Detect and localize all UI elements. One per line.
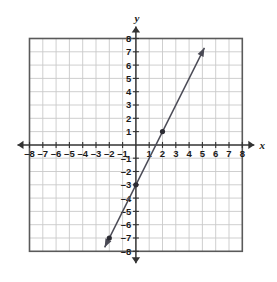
y-tick-label: –7 [121, 232, 132, 243]
graph-canvas: –8–7–6–5–4–3–2–11234567887654321–1–2–3–4… [0, 0, 277, 282]
x-tick-label: –7 [38, 148, 49, 159]
x-tick-label: –3 [91, 148, 102, 159]
y-axis-label: y [132, 12, 139, 24]
x-tick-label: –5 [64, 148, 75, 159]
x-tick-label: –8 [24, 148, 35, 159]
y-tick-label: 5 [126, 73, 132, 84]
y-tick-label: 8 [126, 33, 131, 44]
y-tick-label: 4 [126, 86, 132, 97]
x-tick-label: 5 [200, 148, 206, 159]
y-tick-label: 7 [126, 46, 131, 57]
y-tick-label: 2 [126, 113, 131, 124]
y-tick-label: –6 [121, 219, 132, 230]
y-tick-label: –8 [121, 246, 132, 257]
x-tick-label: 2 [160, 148, 165, 159]
x-tick-label: –6 [51, 148, 62, 159]
x-tick-label: 4 [186, 148, 192, 159]
x-tick-label: 6 [213, 148, 218, 159]
x-tick-label: 8 [240, 148, 245, 159]
axis-arrowhead-down [132, 257, 140, 263]
y-tick-label: –2 [121, 166, 132, 177]
x-axis-label: x [259, 139, 266, 151]
y-tick-label: 6 [126, 60, 131, 71]
axis-arrowhead-left [18, 141, 24, 149]
x-tick-label: 7 [226, 148, 231, 159]
x-tick-label: –4 [77, 148, 88, 159]
y-tick-label: 3 [126, 99, 131, 110]
y-tick-label: –3 [121, 179, 132, 190]
axis-arrowhead-up [132, 27, 140, 33]
y-tick-label: 1 [126, 126, 132, 137]
axis-arrowhead-right [248, 141, 254, 149]
data-point [133, 182, 138, 187]
x-tick-label: –2 [104, 148, 115, 159]
x-tick-label: 3 [173, 148, 178, 159]
data-point [107, 235, 112, 240]
data-point [160, 129, 165, 134]
coordinate-plane-graph: –8–7–6–5–4–3–2–11234567887654321–1–2–3–4… [0, 0, 277, 282]
y-tick-label: –1 [121, 153, 132, 164]
